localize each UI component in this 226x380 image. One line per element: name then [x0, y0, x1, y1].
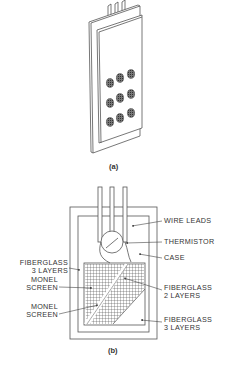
label-fiberglass-2: FIBERGLASS 2 LAYERS	[164, 284, 212, 300]
label-line: SCREEN	[26, 284, 58, 292]
label-monel-screen-1: MONEL SCREEN	[26, 276, 58, 292]
label-line: 2 LAYERS	[164, 292, 212, 300]
label-line: 3 LAYERS	[20, 267, 68, 275]
label-wire-leads: WIRE LEADS	[164, 217, 211, 225]
caption-b: (b)	[108, 346, 118, 355]
label-fiberglass-3-bottom: FIBERGLASS 3 LAYERS	[164, 316, 212, 332]
label-monel-screen-2: MONEL SCREEN	[26, 303, 58, 319]
label-thermistor: THERMISTOR	[164, 238, 214, 246]
label-fiberglass-3-top: FIBERGLASS 3 LAYERS	[20, 259, 68, 275]
label-case: CASE	[164, 254, 185, 262]
label-line: SCREEN	[26, 311, 58, 319]
caption-a: (a)	[109, 162, 118, 171]
label-line: 3 LAYERS	[164, 324, 212, 332]
